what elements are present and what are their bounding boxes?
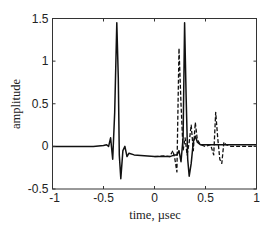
y-tick-label: 0.5 bbox=[32, 97, 49, 111]
plot-lines bbox=[53, 23, 257, 179]
x-tick-label: 1 bbox=[253, 191, 260, 205]
x-tick-label: 0.5 bbox=[197, 191, 214, 205]
series-line-dashed bbox=[155, 48, 257, 172]
x-axis-label: time, µsec bbox=[129, 208, 181, 222]
chart: -1-0.500.51 -0.500.511.5 time, µsec ampl… bbox=[0, 0, 270, 227]
x-tick-label: -1 bbox=[49, 191, 60, 205]
series-line-solid bbox=[53, 23, 257, 179]
plot-frame bbox=[53, 19, 257, 190]
x-tick-label: 0 bbox=[151, 191, 158, 205]
y-tick-label: 0 bbox=[42, 139, 49, 153]
y-axis-ticks: -0.500.511.5 bbox=[28, 12, 257, 197]
y-tick-label: -0.5 bbox=[28, 182, 49, 196]
y-tick-label: 1.5 bbox=[32, 12, 49, 26]
y-tick-label: 1 bbox=[42, 54, 49, 68]
x-tick-label: -0.5 bbox=[93, 191, 114, 205]
y-axis-label: amplitude bbox=[9, 79, 23, 129]
x-axis-ticks: -1-0.500.51 bbox=[49, 19, 260, 206]
